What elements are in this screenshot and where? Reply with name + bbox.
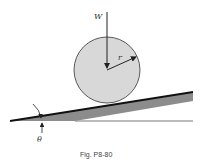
angle-label: θ	[37, 135, 42, 144]
figure-caption: Fig. P8-80	[80, 151, 112, 159]
diagram-canvas: W r θ Fig. P8-80	[0, 0, 206, 168]
weight-label: W	[94, 12, 103, 21]
